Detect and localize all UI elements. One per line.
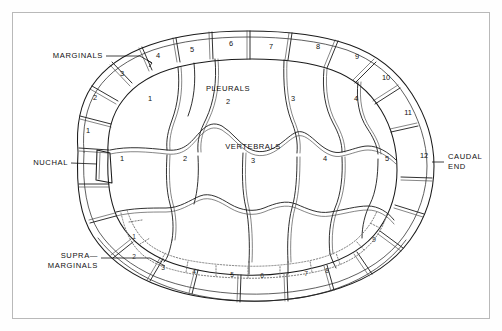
label-pleurals: PLEURALS: [206, 84, 250, 93]
nuchal-leader-line: [71, 163, 97, 164]
supramarginal-scute-1: 1: [132, 233, 136, 240]
marginal-scute-11: 11: [404, 108, 412, 117]
vertebral-scute-5: 5: [385, 154, 389, 163]
region-label-group: MARGINALS PLEURALS VERTEBRALS NUCHAL SUP…: [33, 51, 482, 270]
pleural-scute-1: 1: [148, 94, 152, 103]
pleural-scute-3: 3: [291, 94, 295, 103]
nuchal-scute: [96, 150, 112, 183]
marginal-scute-2: 2: [93, 93, 97, 102]
supramarginal-scute-2: 2: [132, 253, 136, 260]
marginal-scute-5: 5: [190, 45, 194, 54]
marginal-scute-8: 8: [316, 42, 320, 51]
supramarginal-scute-5: 5: [230, 271, 234, 278]
label-caudal-line1: CAUDAL: [448, 152, 482, 161]
pleural-scute-2: 2: [226, 97, 230, 106]
marginal-scute-12: 12: [420, 151, 428, 160]
vertebral-scute-1: 1: [120, 154, 124, 163]
marginal-scute-3: 3: [120, 69, 124, 78]
supramarginal-number-group: 1 2 3 4 5 6 7 8 9: [132, 233, 376, 279]
figure-root: MARGINALS PLEURALS VERTEBRALS NUCHAL SUP…: [0, 0, 502, 331]
vertebral-number-group: 1 2 3 4 5: [120, 154, 389, 165]
label-supramarginals-line1: SUPRA—: [61, 251, 98, 260]
marginal-scute-1: 1: [86, 126, 90, 135]
label-supramarginals-line2: MARGINALS: [48, 261, 98, 270]
vertebral-scute-3: 3: [251, 156, 255, 165]
supramarginal-scute-7: 7: [304, 270, 308, 277]
marginal-scute-4: 4: [156, 51, 160, 60]
label-caudal-line2: END: [448, 162, 466, 171]
supramarginal-scute-6: 6: [260, 272, 264, 279]
pleural-scute-4: 4: [354, 94, 358, 103]
vertebral-scute-2: 2: [183, 154, 187, 163]
carapace-diagram: MARGINALS PLEURALS VERTEBRALS NUCHAL SUP…: [0, 0, 502, 331]
pleural-vertebral-seams: [110, 59, 396, 274]
supramarginal-scute-3: 3: [161, 264, 165, 271]
marginal-scute-6: 6: [229, 39, 233, 48]
label-marginals: MARGINALS: [53, 51, 103, 60]
carapace-outer-rim: [78, 31, 434, 301]
marginal-scute-10: 10: [382, 73, 390, 82]
label-vertebrals: VERTEBRALS: [225, 142, 281, 151]
label-nuchal: NUCHAL: [33, 158, 68, 167]
marginal-scute-7: 7: [269, 42, 273, 51]
supramarginal-scute-4: 4: [192, 268, 196, 275]
vertebral-scute-4: 4: [323, 154, 327, 163]
supramarginal-scute-9: 9: [372, 236, 376, 243]
supramarginal-scute-8: 8: [325, 267, 329, 274]
marginal-scute-9: 9: [355, 52, 359, 61]
